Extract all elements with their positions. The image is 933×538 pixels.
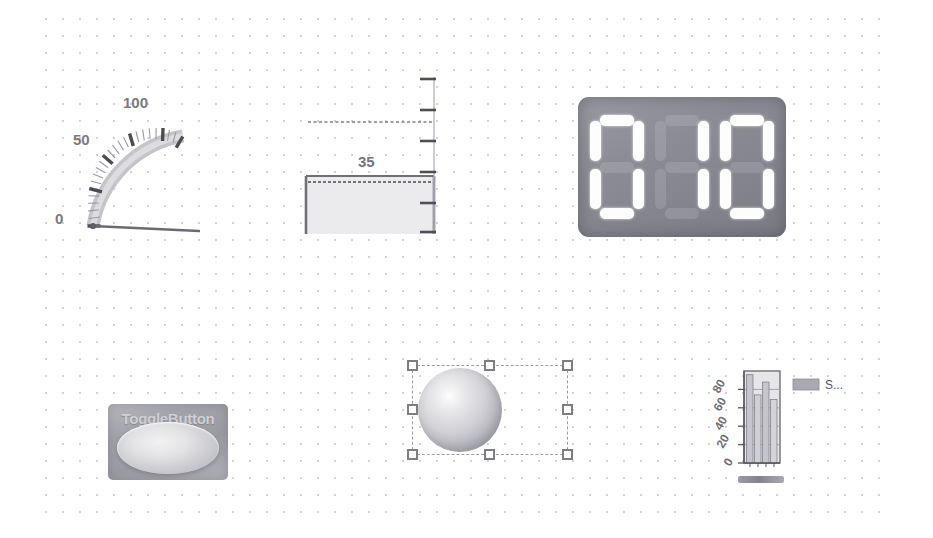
chart-legend-swatch [793, 379, 819, 390]
toggle-button[interactable]: ToggleButton [108, 404, 228, 480]
segment-b [633, 121, 644, 161]
bar-chart-svg: 0 20 40 60 80 S... [706, 366, 866, 491]
chart-bar-1 [747, 375, 754, 463]
segment-d [600, 208, 634, 219]
chart-legend-label: S... [825, 378, 843, 392]
chart-bar-3 [763, 382, 770, 463]
segment-c [633, 169, 644, 209]
form-designer-canvas[interactable]: 0 50 100 [0, 0, 933, 538]
levelbar-fill [306, 176, 434, 234]
resize-handle-bottom-center[interactable] [484, 449, 495, 460]
sphere-shape[interactable] [418, 368, 502, 452]
segment-g [730, 162, 764, 173]
gauge-tick-label-0: 0 [55, 210, 63, 227]
segment-b [698, 121, 709, 161]
chart-ytick-20: 20 [713, 432, 732, 451]
resize-handle-middle-right[interactable] [562, 404, 573, 415]
chart-scrollbar[interactable] [738, 476, 784, 483]
levelbar-value-label: 35 [358, 153, 375, 170]
levelbar-svg: 35 [300, 72, 450, 237]
chart-bar-4 [771, 400, 778, 464]
toggle-button-dome [117, 422, 219, 474]
sphere-widget-selection[interactable] [405, 360, 575, 460]
segment-g [600, 162, 634, 173]
chart-bar-2 [755, 395, 762, 463]
gauge-tick-label-100: 100 [123, 94, 148, 111]
segment-f [655, 121, 666, 161]
segment-e [720, 169, 731, 209]
segment-e [590, 169, 601, 209]
resize-handle-bottom-left[interactable] [407, 449, 418, 460]
segment-f [590, 121, 601, 161]
chart-ytick-40: 40 [711, 414, 730, 433]
segment-c [763, 169, 774, 209]
segment-e [655, 169, 666, 209]
resize-handle-top-center[interactable] [484, 360, 495, 371]
linear-bar-graph-widget[interactable]: 35 [300, 72, 450, 237]
gauge-svg: 0 50 100 [55, 78, 200, 233]
led-digit-2 [655, 115, 709, 219]
segment-a [600, 115, 634, 126]
bar-chart-widget[interactable]: 0 20 40 60 80 S... [706, 366, 866, 491]
chart-y-ticks [738, 389, 744, 463]
segment-c [698, 169, 709, 209]
segment-a [665, 115, 699, 126]
resize-handle-middle-left[interactable] [407, 404, 418, 415]
led-digit-3 [720, 115, 774, 219]
angular-gauge-widget[interactable]: 0 50 100 [55, 78, 200, 233]
segment-a [730, 115, 764, 126]
chart-ytick-80: 80 [709, 377, 728, 396]
gauge-tick-label-50: 50 [73, 131, 90, 148]
segment-b [763, 121, 774, 161]
resize-handle-bottom-right[interactable] [562, 449, 573, 460]
segment-g [665, 162, 699, 173]
chart-ytick-60: 60 [710, 395, 729, 414]
led-digit-1 [590, 115, 644, 219]
gauge-scale-band [93, 136, 183, 226]
chart-ytick-0: 0 [720, 455, 736, 468]
seven-segment-display-widget[interactable] [578, 97, 786, 237]
segment-d [730, 208, 764, 219]
segment-f [720, 121, 731, 161]
gauge-needle [90, 223, 199, 231]
resize-handle-top-left[interactable] [407, 360, 418, 371]
segment-d [665, 208, 699, 219]
resize-handle-top-right[interactable] [562, 360, 573, 371]
